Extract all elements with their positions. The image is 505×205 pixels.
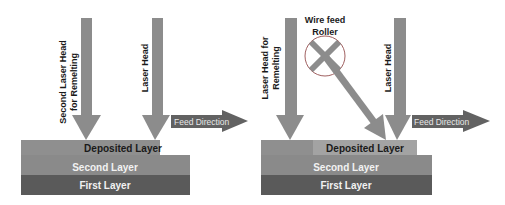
right-panel: Deposited Layer Second Layer First Layer… [260,15,490,195]
left-second-layer-label: Second Layer [72,162,138,173]
left-first-layer-label: First Layer [79,180,130,191]
second-laser-head-label-line1: Second Laser Head [58,40,68,124]
laser-head-label: Laser Head [140,44,150,93]
left-panel: Deposited Layer Second Layer First Layer… [21,18,248,195]
left-deposited-layer-label: Deposited Layer [84,143,162,154]
remelting-laser-head-label-line2: Remelting [271,46,281,90]
wire-feed-label-line2: Roller [312,27,338,37]
right-base-top-region [261,140,314,156]
wire-feed-arrow [325,56,386,140]
right-first-layer-label: First Layer [320,180,371,191]
second-laser-head-label-line2: for Remelting [69,53,79,111]
right-feed-direction-label: Feed Direction [414,117,470,127]
right-deposited-layer-label: Deposited Layer [326,143,404,154]
right-laser-head-label: Laser Head [383,44,393,93]
left-feed-direction-label: Feed Direction [174,117,230,127]
additive-manufacturing-diagram: Deposited Layer Second Layer First Layer… [0,0,505,205]
wire-feed-label-line1: Wire feed [305,15,345,25]
remelting-laser-head-label-line1: Laser Head for [260,36,270,100]
right-second-layer-label: Second Layer [313,162,379,173]
